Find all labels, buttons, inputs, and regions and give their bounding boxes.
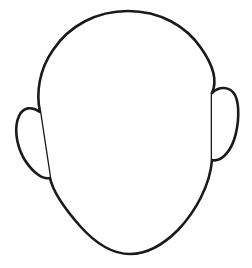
drawing-canvas: Blank Face Outline [0,0,252,268]
blank-face-outline-illustration [0,0,252,268]
